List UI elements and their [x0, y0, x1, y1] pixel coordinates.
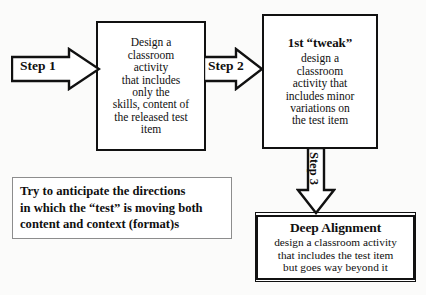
- callout-anticipate-directions: Try to anticipate the directions in whic…: [12, 177, 232, 239]
- box-design-line-8: item: [141, 123, 161, 135]
- note-line-3: content and context (format)s: [20, 216, 224, 232]
- box-tweak-line-6: the test item: [292, 114, 348, 126]
- box-tweak-line-4: includes minor: [286, 90, 355, 102]
- box-deep-line-1: design a classroom activity: [274, 236, 397, 249]
- process-box-first-tweak: 1st “tweak” design a classroom activity …: [262, 14, 378, 149]
- box-deep-line-2: that includes the test item: [278, 249, 393, 262]
- box-design-line-6: skills, content of: [113, 98, 189, 110]
- box-design-line-1: Design a: [131, 36, 172, 48]
- process-box-design-activity: Design a classroom activity that include…: [96, 21, 206, 151]
- box-deep-line-3: but goes way beyond it: [283, 261, 388, 274]
- box-tweak-line-1: design a: [301, 52, 339, 64]
- box-design-line-5: only the: [132, 86, 169, 98]
- note-line-2: in which the “test” is moving both: [20, 200, 224, 216]
- arrow-step-3-label: Step 3: [306, 152, 321, 185]
- box-design-line-2: classroom: [128, 49, 175, 61]
- box-tweak-line-3: activity that: [293, 77, 348, 89]
- box-design-line-4: that includes: [122, 74, 180, 86]
- process-box-deep-alignment: Deep Alignment design a classroom activi…: [255, 212, 416, 282]
- box-tweak-line-2: classroom: [297, 65, 344, 77]
- note-line-1: Try to anticipate the directions: [20, 183, 224, 199]
- box-tweak-title: 1st “tweak”: [288, 36, 352, 50]
- arrow-step-1-label: Step 1: [20, 58, 56, 74]
- arrow-step-2-label: Step 2: [208, 58, 244, 74]
- deep-alignment-inner-frame: Deep Alignment design a classroom activi…: [256, 215, 415, 280]
- diagram-canvas: Design a classroom activity that include…: [0, 0, 426, 295]
- box-design-line-7: the released test: [114, 111, 187, 123]
- box-tweak-line-5: variations on: [290, 102, 350, 114]
- box-design-line-3: activity: [134, 61, 169, 73]
- box-deep-title: Deep Alignment: [290, 220, 381, 235]
